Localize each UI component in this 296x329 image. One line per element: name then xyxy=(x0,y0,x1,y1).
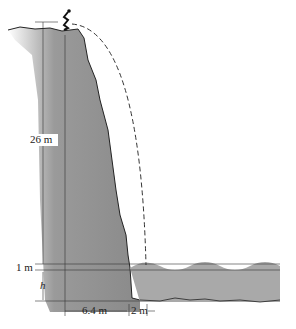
label-h: h xyxy=(40,279,46,291)
diver-icon xyxy=(64,9,71,30)
label-6-4m: 6.4 m xyxy=(82,304,108,316)
label-2m: 2 m xyxy=(131,304,148,316)
label-1m: 1 m xyxy=(16,261,33,273)
label-26m: 26 m xyxy=(30,133,53,145)
diagram-canvas: 26 m 1 m h 6.4 m 2 m xyxy=(0,0,296,329)
water-body xyxy=(130,262,280,302)
cliff-diagram: 26 m 1 m h 6.4 m 2 m xyxy=(0,0,296,329)
